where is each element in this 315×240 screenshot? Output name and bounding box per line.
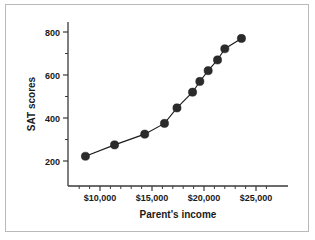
scatter-line-plot: 800600400200$10,000$15,000$20,000$25,000… xyxy=(0,0,315,240)
data-point-marker xyxy=(196,77,204,85)
data-point-marker xyxy=(188,88,196,96)
data-point-marker xyxy=(204,67,212,75)
x-tick-label: $15,000 xyxy=(136,193,169,203)
data-point-marker xyxy=(237,34,245,42)
data-point-marker xyxy=(173,104,181,112)
x-tick-label: $25,000 xyxy=(240,193,273,203)
x-tick-label: $20,000 xyxy=(188,193,221,203)
data-point-marker xyxy=(213,56,221,64)
data-point-marker xyxy=(141,130,149,138)
data-point-marker xyxy=(221,45,229,53)
data-point-marker xyxy=(81,152,89,160)
data-point-marker xyxy=(110,141,118,149)
y-axis-title: SAT scores xyxy=(26,76,37,131)
y-tick-label: 600 xyxy=(45,71,60,81)
x-axis-title: Parent's income xyxy=(140,209,217,220)
y-tick-label: 400 xyxy=(45,114,60,124)
x-tick-label: $10,000 xyxy=(84,193,117,203)
chart-figure: 800600400200$10,000$15,000$20,000$25,000… xyxy=(0,0,315,240)
data-point-marker xyxy=(160,119,168,127)
y-tick-label: 200 xyxy=(45,157,60,167)
y-tick-label: 800 xyxy=(45,28,60,38)
